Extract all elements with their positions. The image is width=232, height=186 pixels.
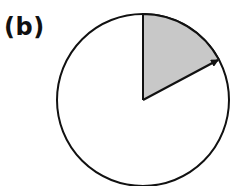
circle-sector-diagram [0, 0, 232, 186]
